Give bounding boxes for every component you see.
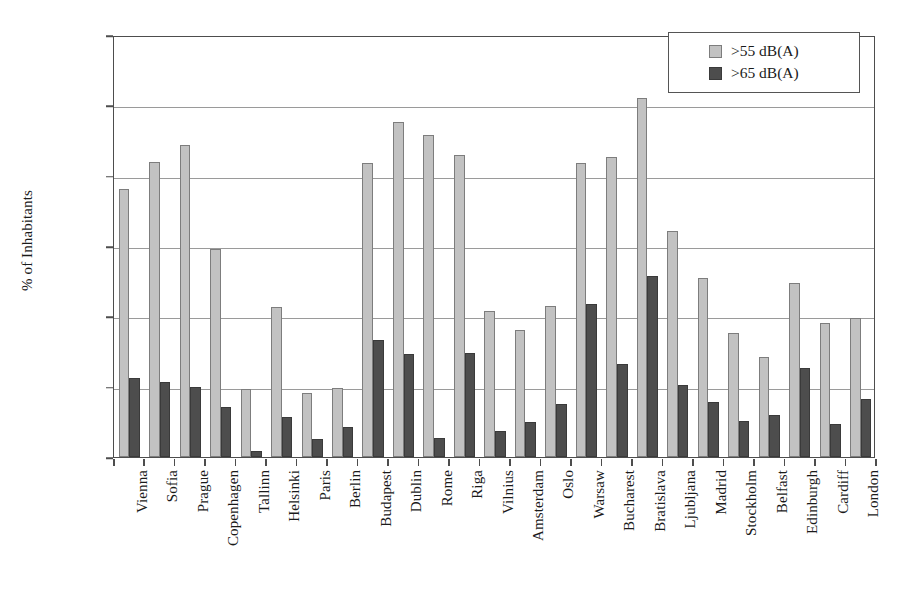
bar-budapest-series0: [362, 163, 373, 457]
bar-vienna-series1: [129, 378, 140, 457]
bar-dublin-series0: [393, 122, 404, 457]
bar-prague-series1: [190, 387, 201, 457]
bar-vilnius-series0: [484, 311, 495, 457]
bar-tallinn-series0: [241, 389, 252, 457]
bar-stockholm-series1: [739, 421, 750, 457]
bar-sofia-series1: [160, 382, 171, 457]
x-axis-label-sofia: Sofia: [164, 470, 181, 502]
x-tick-mark: [509, 459, 511, 466]
bar-ljubljana-series1: [678, 385, 689, 457]
bar-bratislava-series0: [637, 98, 648, 457]
bar-belfast-series1: [769, 415, 780, 457]
chart-legend: >55 dB(A) >65 dB(A): [668, 32, 860, 93]
bar-cardiff-series1: [830, 424, 841, 457]
x-axis-label-berlin: Berlin: [347, 470, 364, 508]
x-tick-mark: [784, 459, 786, 466]
x-axis-label-rome: Rome: [439, 470, 456, 506]
x-tick-mark: [448, 459, 450, 466]
x-tick-mark: [662, 459, 664, 466]
y-tick-mark: [106, 387, 113, 389]
y-tick-mark: [106, 246, 113, 248]
bar-edinburgh-series1: [800, 368, 811, 457]
x-axis-label-dublin: Dublin: [408, 470, 425, 512]
bar-riga-series1: [465, 353, 476, 457]
x-axis-label-warsaw: Warsaw: [591, 470, 608, 519]
bar-madrid-series0: [698, 278, 709, 457]
bars-layer: [114, 37, 874, 457]
y-tick-mark: [106, 176, 113, 178]
x-axis-label-budapest: Budapest: [378, 470, 395, 527]
bar-paris-series0: [302, 393, 313, 457]
x-axis-label-madrid: Madrid: [713, 470, 730, 515]
legend-item: >55 dB(A): [669, 40, 859, 62]
x-tick-mark: [875, 459, 877, 466]
x-axis-label-tallinn: Tallinn: [256, 470, 273, 513]
y-tick-mark: [106, 106, 113, 108]
bar-london-series0: [850, 318, 861, 457]
x-tick-mark: [265, 459, 267, 466]
bar-vienna-series0: [119, 189, 130, 457]
x-tick-mark: [723, 459, 725, 466]
bar-ljubljana-series0: [667, 231, 678, 457]
bar-dublin-series1: [404, 354, 415, 457]
bar-copenhagen-series0: [210, 249, 221, 457]
x-axis-label-vienna: Vienna: [134, 470, 151, 513]
noise-exposure-bar-chart: % of Inhabitants 0%20%40%60%80%100%120%V…: [0, 0, 913, 605]
bar-bratislava-series1: [647, 276, 658, 457]
bar-helsinki-series0: [271, 307, 282, 458]
x-tick-mark: [601, 459, 603, 466]
x-tick-mark: [387, 459, 389, 466]
plot-area: [113, 36, 875, 458]
bar-prague-series0: [180, 145, 191, 457]
bar-london-series1: [861, 399, 872, 457]
x-tick-mark: [235, 459, 237, 466]
bar-belfast-series0: [759, 357, 770, 457]
x-tick-mark: [113, 459, 115, 466]
x-tick-mark: [631, 459, 633, 466]
x-tick-mark: [204, 459, 206, 466]
x-axis-label-paris: Paris: [317, 470, 334, 501]
bar-bucharest-series0: [606, 157, 617, 457]
bar-berlin-series1: [343, 427, 354, 457]
x-axis-label-amsterdam: Amsterdam: [530, 470, 547, 541]
x-tick-mark: [174, 459, 176, 466]
y-tick-mark: [106, 457, 113, 459]
x-tick-mark: [296, 459, 298, 466]
bar-rome-series1: [434, 438, 445, 457]
bar-amsterdam-series0: [515, 330, 526, 457]
x-axis-label-prague: Prague: [195, 470, 212, 512]
legend-label: >55 dB(A): [731, 42, 799, 60]
x-axis-label-bratislava: Bratislava: [652, 470, 669, 532]
legend-swatch-icon: [709, 45, 722, 58]
bar-stockholm-series0: [728, 333, 739, 457]
bar-vilnius-series1: [495, 431, 506, 457]
x-tick-mark: [692, 459, 694, 466]
legend-item: >65 dB(A): [669, 62, 859, 84]
x-tick-mark: [143, 459, 145, 466]
x-axis-label-riga: Riga: [469, 470, 486, 499]
x-axis-label-cardiff: Cardiff: [835, 470, 852, 514]
x-tick-mark: [845, 459, 847, 466]
x-axis-label-stockholm: Stockholm: [743, 470, 760, 536]
y-tick-mark: [106, 35, 113, 37]
x-axis-label-edinburgh: Edinburgh: [804, 470, 821, 534]
bar-riga-series0: [454, 155, 465, 457]
bar-edinburgh-series0: [789, 283, 800, 457]
bar-helsinki-series1: [282, 417, 293, 457]
bar-rome-series0: [423, 135, 434, 457]
bar-budapest-series1: [373, 340, 384, 457]
x-axis-label-copenhagen: Copenhagen: [225, 470, 242, 546]
bar-tallinn-series1: [251, 451, 262, 457]
y-axis-title: % of Inhabitants: [19, 151, 36, 331]
x-tick-mark: [479, 459, 481, 466]
y-tick-mark: [106, 317, 113, 319]
bar-cardiff-series0: [820, 323, 831, 457]
bar-berlin-series0: [332, 388, 343, 457]
x-tick-mark: [753, 459, 755, 466]
x-tick-mark: [814, 459, 816, 466]
bar-sofia-series0: [149, 162, 160, 457]
legend-label: >65 dB(A): [731, 64, 799, 82]
bar-bucharest-series1: [617, 364, 628, 457]
legend-swatch-icon: [709, 67, 722, 80]
x-tick-mark: [326, 459, 328, 466]
